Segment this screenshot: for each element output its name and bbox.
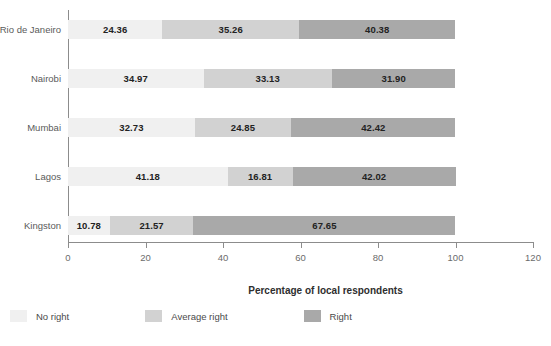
x-axis-tick	[301, 242, 302, 248]
bar-segment[interactable]: 40.38	[299, 20, 455, 39]
bar-segment-value: 24.85	[231, 122, 255, 133]
bar-segment[interactable]: 42.42	[291, 118, 455, 137]
x-axis-tick-label: 80	[373, 252, 384, 263]
legend-item[interactable]: No right	[10, 310, 69, 322]
bar-segment-value: 31.90	[382, 73, 406, 84]
bar-segment[interactable]: 21.57	[110, 216, 194, 235]
legend-item[interactable]: Right	[304, 310, 352, 322]
x-axis-title: Percentage of local respondents	[0, 285, 551, 296]
bar-row: Mumbai32.7324.8542.42	[0, 118, 551, 137]
bar-segment[interactable]: 35.26	[162, 20, 299, 39]
bar-segment[interactable]: 34.97	[68, 69, 204, 88]
category-label: Rio de Janeiro	[0, 20, 61, 39]
bar-segment-value: 21.57	[139, 220, 163, 231]
bar-row: Kingston10.7821.5767.65	[0, 216, 551, 235]
legend-label: Average right	[171, 311, 227, 322]
chart-legend: No rightAverage rightRight	[10, 310, 428, 322]
legend-swatch-icon	[304, 310, 321, 322]
bar-segment[interactable]: 42.02	[293, 167, 456, 186]
bar-segment-value: 40.38	[365, 24, 389, 35]
bar-segment[interactable]: 10.78	[68, 216, 110, 235]
bar-segment[interactable]: 41.18	[68, 167, 228, 186]
x-axis-tick-label: 100	[448, 252, 464, 263]
x-axis-tick	[456, 242, 457, 248]
legend-swatch-icon	[10, 310, 27, 322]
x-axis-tick-label: 0	[65, 252, 70, 263]
legend-swatch-icon	[145, 310, 162, 322]
x-axis-tick-label: 120	[525, 252, 541, 263]
bar-segment[interactable]: 24.36	[68, 20, 162, 39]
x-axis-tick	[378, 242, 379, 248]
category-label: Mumbai	[27, 118, 61, 137]
x-axis-tick	[223, 242, 224, 248]
bar-row: Rio de Janeiro24.3635.2640.38	[0, 20, 551, 39]
bar-segment-value: 34.97	[124, 73, 148, 84]
bar-segment-value: 24.36	[103, 24, 127, 35]
bar-row: Nairobi34.9733.1331.90	[0, 69, 551, 88]
bar-segment[interactable]: 16.81	[228, 167, 293, 186]
bar-segment[interactable]: 33.13	[204, 69, 332, 88]
bar-segment-value: 42.02	[362, 171, 386, 182]
category-label: Nairobi	[31, 69, 61, 88]
bar-segment[interactable]: 32.73	[68, 118, 195, 137]
legend-label: No right	[36, 311, 69, 322]
bar-segment-value: 35.26	[219, 24, 243, 35]
x-axis-tick-label: 20	[140, 252, 151, 263]
legend-item[interactable]: Average right	[145, 310, 227, 322]
x-axis-tick-label: 60	[295, 252, 306, 263]
bar-segment-value: 67.65	[312, 220, 336, 231]
bar-segment-value: 10.78	[77, 220, 101, 231]
bar-segment-value: 32.73	[119, 122, 143, 133]
legend-label: Right	[330, 311, 352, 322]
bar-segment-value: 16.81	[248, 171, 272, 182]
x-axis-tick	[68, 242, 69, 248]
plot-area: 020406080100120 Rio de Janeiro24.3635.26…	[0, 0, 551, 346]
stacked-bar-chart: 020406080100120 Rio de Janeiro24.3635.26…	[0, 0, 551, 346]
x-axis-tick-label: 40	[218, 252, 229, 263]
x-axis-tick	[533, 242, 534, 248]
bar-row: Lagos41.1816.8142.02	[0, 167, 551, 186]
bar-segment[interactable]: 24.85	[195, 118, 291, 137]
bar-segment[interactable]: 31.90	[332, 69, 456, 88]
bar-segment-value: 42.42	[361, 122, 385, 133]
category-label: Kingston	[24, 216, 61, 235]
bar-segment-value: 41.18	[136, 171, 160, 182]
bar-segment-value: 33.13	[256, 73, 280, 84]
category-label: Lagos	[35, 167, 61, 186]
bar-segment[interactable]: 67.65	[193, 216, 455, 235]
x-axis-tick	[146, 242, 147, 248]
